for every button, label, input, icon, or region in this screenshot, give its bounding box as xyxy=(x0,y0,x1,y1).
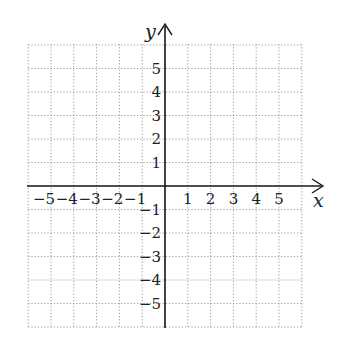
x-tick-label: 1 xyxy=(183,190,193,208)
x-tick-label: −3 xyxy=(78,190,100,208)
y-tick-label: −4 xyxy=(139,271,161,289)
x-tick-label: 4 xyxy=(251,190,261,208)
x-tick-label: −2 xyxy=(101,190,123,208)
y-tick-label: −3 xyxy=(139,248,161,266)
x-tick-label: 5 xyxy=(274,190,284,208)
x-tick-label: −4 xyxy=(56,190,78,208)
x-tick-label: −5 xyxy=(33,190,55,208)
y-axis-label: y xyxy=(144,20,156,42)
y-tick-label: 4 xyxy=(151,83,161,101)
y-tick-label: 2 xyxy=(151,130,161,148)
y-tick-label: −5 xyxy=(139,295,161,313)
y-tick-label: −1 xyxy=(139,201,161,219)
y-tick-label: 5 xyxy=(151,60,161,78)
x-tick-label: 3 xyxy=(229,190,239,208)
y-tick-label: 3 xyxy=(151,107,161,125)
y-tick-label: −2 xyxy=(139,224,161,242)
x-tick-label: 2 xyxy=(206,190,216,208)
coordinate-plane: −5−4−3−2−112345 54321−1−2−3−4−5 x y xyxy=(0,0,340,353)
x-axis-label: x xyxy=(313,189,324,211)
y-tick-label: 1 xyxy=(151,154,161,172)
